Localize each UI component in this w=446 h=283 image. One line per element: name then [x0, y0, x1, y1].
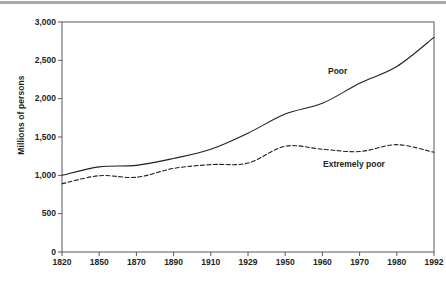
series-label-poor: Poor	[328, 67, 347, 76]
line-chart-figure: Millions of persons 05001,0001,5002,0002…	[0, 0, 446, 283]
x-tick-label: 1970	[340, 258, 380, 267]
x-tick-label: 1980	[377, 258, 417, 267]
x-tick-label: 1910	[191, 258, 231, 267]
plot-area	[0, 0, 446, 283]
x-tick-label: 1992	[414, 258, 446, 267]
x-tick-label: 1950	[265, 258, 305, 267]
x-tick-label: 1890	[154, 258, 194, 267]
x-tick-label: 1820	[42, 258, 82, 267]
series-line-poor	[62, 37, 434, 175]
y-axis-ticks	[58, 22, 62, 252]
x-tick-label: 1850	[79, 258, 119, 267]
x-tick-label: 1870	[116, 258, 156, 267]
plot-frame	[62, 22, 434, 252]
x-tick-label: 1929	[228, 258, 268, 267]
x-axis-ticks	[62, 252, 434, 256]
x-tick-label: 1960	[302, 258, 342, 267]
series-label-extremely-poor: Extremely poor	[323, 160, 385, 169]
